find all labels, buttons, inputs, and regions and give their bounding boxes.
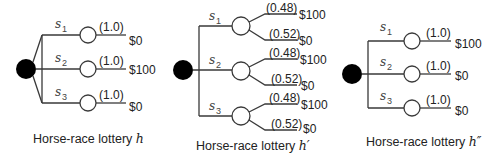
lottery-h: s 1 (1.0) $0 s 2 (1.0) $100 s 3 (1.0) $0…	[16, 17, 156, 146]
probability-label: (1.0)	[426, 93, 451, 107]
payoff-label: $100	[455, 37, 482, 51]
caption: Horse-race lottery h′	[196, 138, 310, 153]
chance-node	[80, 95, 96, 111]
state-label: s	[380, 55, 386, 69]
state-subscript: 1	[62, 24, 67, 34]
state-subscript: 2	[387, 62, 392, 72]
state-subscript: 1	[387, 27, 392, 37]
payoff-label: $100	[301, 98, 328, 112]
probability-label: (0.52)	[269, 27, 300, 41]
state-label: s	[209, 53, 215, 67]
state-subscript: 3	[387, 96, 392, 106]
state-subscript: 1	[216, 16, 221, 26]
payoff-label: $0	[129, 100, 143, 114]
state-label: s	[55, 17, 61, 31]
state-subscript: 2	[216, 60, 221, 70]
probability-label: (0.48)	[269, 46, 300, 60]
payoff-label: $0	[299, 34, 313, 48]
payoff-label: $0	[129, 34, 143, 48]
probability-label: (1.0)	[99, 20, 124, 34]
chance-node	[404, 100, 420, 116]
payoff-label: $100	[129, 63, 156, 77]
lottery-h-double-prime: s 1 (1.0) $100 s 2 (1.0) $0 s 3 (1.0) $0…	[342, 20, 482, 149]
probability-label: (1.0)	[426, 26, 451, 40]
chance-node	[232, 62, 250, 80]
probability-label: (1.0)	[99, 88, 124, 102]
state-subscript: 2	[62, 58, 67, 68]
payoff-label: $0	[303, 122, 317, 136]
decision-node	[173, 60, 193, 80]
lottery-h-prime: s 1 (0.48) $100 (0.52) $0 s 2 (0.48) $10…	[173, 1, 328, 153]
probability-label: (1.0)	[426, 59, 451, 73]
state-label: s	[209, 9, 215, 23]
chance-node	[404, 33, 420, 49]
probability-label: (0.52)	[271, 117, 302, 131]
probability-label: (1.0)	[99, 54, 124, 68]
probability-label: (0.48)	[269, 91, 300, 105]
state-label: s	[55, 51, 61, 65]
payoff-label: $100	[299, 8, 326, 22]
probability-label: (0.48)	[266, 1, 297, 15]
chance-node	[232, 107, 250, 125]
chance-node	[232, 17, 250, 35]
state-label: s	[209, 99, 215, 113]
state-subscript: 3	[216, 106, 221, 116]
state-label: s	[55, 85, 61, 99]
payoff-label: $100	[300, 53, 327, 67]
caption: Horse-race lottery h	[33, 131, 144, 146]
state-subscript: 3	[62, 92, 67, 102]
chance-node	[80, 61, 96, 77]
payoff-label: $0	[301, 79, 315, 93]
payoff-label: $0	[455, 104, 469, 118]
probability-label: (0.52)	[271, 72, 302, 86]
chance-node	[80, 27, 96, 43]
payoff-label: $0	[455, 69, 469, 83]
caption: Horse-race lottery h″	[366, 134, 482, 149]
state-label: s	[380, 20, 386, 34]
state-label: s	[380, 89, 386, 103]
chance-node	[404, 66, 420, 82]
decision-node	[342, 64, 362, 84]
